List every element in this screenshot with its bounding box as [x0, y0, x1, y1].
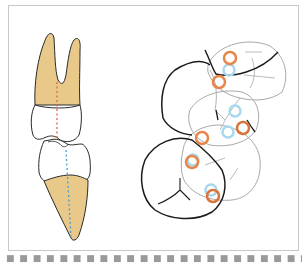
lower-tooth-root — [44, 175, 88, 240]
lower-tooth — [39, 139, 91, 240]
blue-contact-marker — [224, 65, 235, 76]
figure-caption: ■ ■ ■ ■ ■ ■ ■ ■ ■ ■ ■ ■ ■ ■ ■ ■ ■ ■ ■ ■ … — [6, 253, 302, 263]
upper-tooth-crown — [31, 105, 81, 142]
upper-tooth — [31, 34, 81, 142]
orange-contact-marker — [237, 122, 249, 134]
occlusal-view — [142, 42, 286, 219]
blue-contact-marker — [223, 127, 234, 138]
light-outline-lower — [181, 125, 260, 200]
orange-contact-marker — [224, 52, 236, 64]
light-outline-top — [208, 42, 286, 100]
upper-tooth-root — [35, 34, 80, 106]
